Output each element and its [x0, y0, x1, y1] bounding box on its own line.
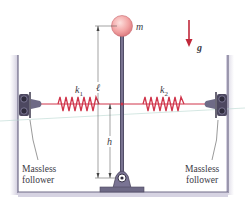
spring-k1-subscript: 1	[79, 90, 83, 98]
pendulum-spring-diagram: m g k1 k2 ℓ h Massless follower Massless…	[0, 0, 245, 212]
right-clevis	[205, 99, 216, 109]
height-arrow-bottom	[109, 173, 112, 178]
floor	[18, 192, 228, 197]
right-roller-bottom	[219, 108, 225, 114]
right-follower-label-line2: follower	[186, 175, 219, 185]
pivot-pin	[120, 176, 123, 179]
right-follower	[205, 92, 228, 118]
gravity-indicator	[186, 20, 193, 47]
left-wall-shade	[10, 55, 18, 195]
left-roller-top	[21, 96, 27, 102]
pivot-support	[100, 171, 144, 192]
length-label: ℓ	[96, 82, 100, 93]
right-follower-label-line1: Massless	[185, 164, 220, 174]
height-arrow-top	[109, 104, 112, 109]
left-follower-leader	[30, 120, 38, 160]
left-follower-label-line2: follower	[22, 175, 55, 185]
spring-k1-label: k1	[75, 84, 83, 98]
left-follower-label-line1: Massless	[22, 164, 57, 174]
right-wall-shade	[226, 55, 234, 195]
left-follower	[19, 92, 42, 118]
spring-attachment-point	[121, 103, 124, 106]
spring-k2-subscript: 2	[164, 90, 168, 98]
pivot-base-plate	[100, 187, 144, 192]
mass-label: m	[136, 21, 143, 32]
length-arrow-top	[97, 26, 100, 31]
right-follower-leader	[212, 120, 218, 160]
pendulum-rod	[120, 34, 124, 184]
gravity-label: g	[196, 42, 202, 53]
left-roller-bottom	[21, 108, 27, 114]
height-label: h	[107, 136, 112, 147]
length-arrow-bottom	[97, 173, 100, 178]
right-roller-top	[219, 96, 225, 102]
spring-k2-label: k2	[160, 84, 168, 98]
left-clevis	[31, 99, 42, 109]
gravity-arrow-head	[186, 39, 193, 47]
